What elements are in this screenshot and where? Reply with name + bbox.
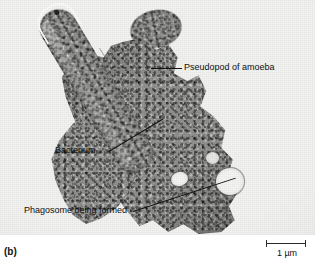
label-pseudopod: Pseudopod of amoeba [184,62,275,73]
vignette-overlay [0,0,315,235]
label-phagosome: Phagosome being formed [24,205,127,216]
label-bacterium: Bacterium [55,145,96,156]
scale-bar-cap-right [305,240,306,247]
panel-letter: (b) [4,246,17,257]
leader-line-pseudopod [151,68,182,69]
scale-bar-graphic [264,240,310,247]
micrograph-image: Pseudopod of amoeba Bacterium Phagosome … [0,0,315,235]
scale-bar: 1 µm [264,240,310,258]
scale-bar-line [266,243,306,244]
scale-bar-label: 1 µm [264,248,310,258]
figure-panel: Pseudopod of amoeba Bacterium Phagosome … [0,0,315,268]
